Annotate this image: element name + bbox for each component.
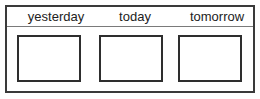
header-row: yesterday today tomorrow [7, 7, 253, 27]
column-label-tomorrow: tomorrow [177, 9, 257, 24]
box-yesterday [17, 35, 81, 82]
column-label-yesterday: yesterday [16, 9, 96, 24]
box-tomorrow [178, 35, 242, 82]
timeline-frame: yesterday today tomorrow [5, 5, 255, 93]
column-label-today: today [95, 9, 175, 24]
box-today [99, 35, 163, 82]
